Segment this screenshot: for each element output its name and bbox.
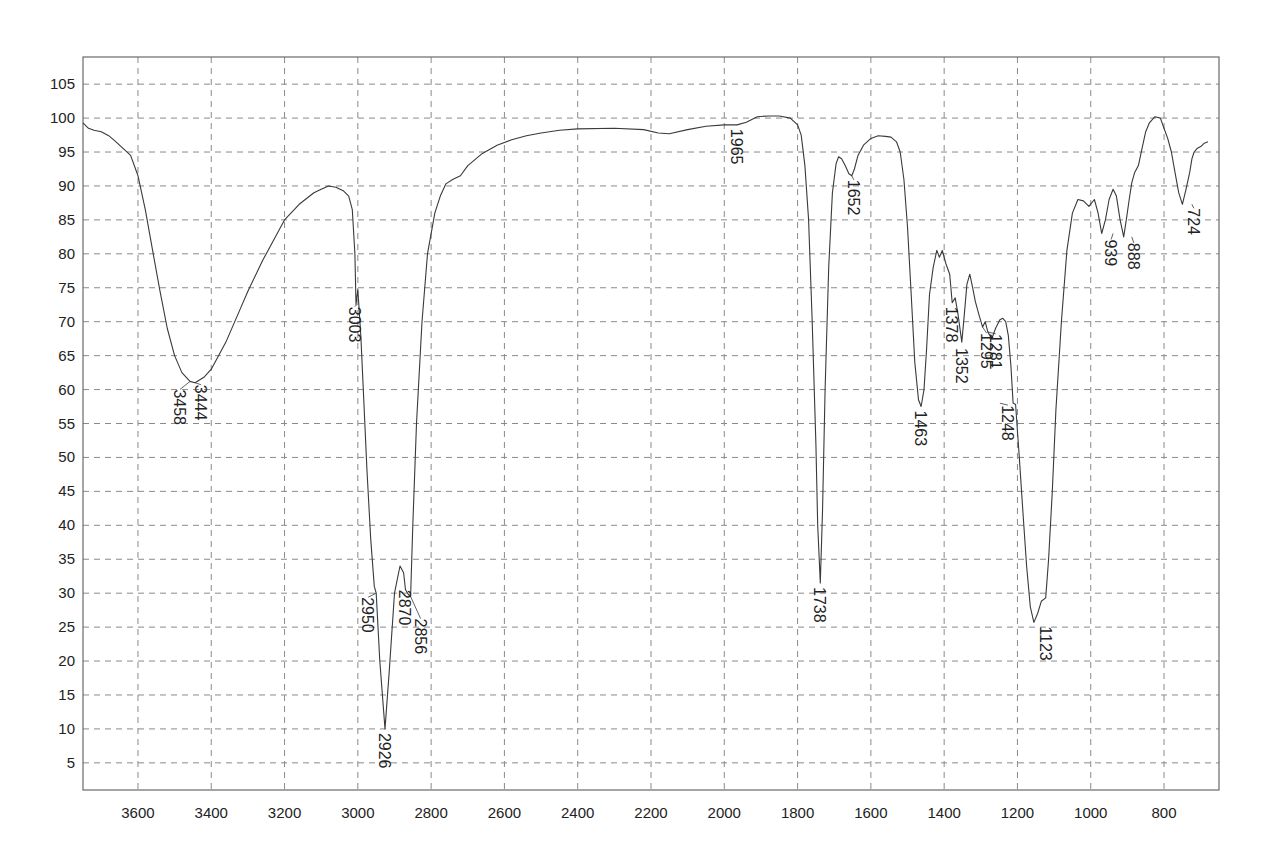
x-tick-label: 3000	[341, 804, 374, 821]
y-tick-label: 85	[58, 211, 75, 228]
y-tick-label: 90	[58, 177, 75, 194]
y-tick-label: 95	[58, 143, 75, 160]
x-tick-label: 2600	[488, 804, 521, 821]
peak-label: 2926	[376, 733, 393, 769]
y-axis-ticks: 5101520253035404550556065707580859095100…	[50, 75, 75, 771]
ir-spectrum-chart: 5101520253035404550556065707580859095100…	[0, 0, 1268, 853]
peak-label: 2856	[412, 619, 429, 655]
peak-label: 724	[1185, 208, 1202, 235]
peak-label: 1248	[999, 405, 1016, 441]
y-tick-label: 65	[58, 347, 75, 364]
x-tick-label: 800	[1152, 804, 1177, 821]
y-tick-label: 60	[58, 381, 75, 398]
y-tick-label: 10	[58, 720, 75, 737]
peak-label: 1123	[1037, 626, 1054, 661]
y-tick-label: 55	[58, 415, 75, 432]
x-tick-label: 2200	[634, 804, 667, 821]
x-axis-ticks: 3600340032003000280026002400220020001800…	[121, 804, 1176, 821]
y-tick-label: 70	[58, 313, 75, 330]
peak-label: 1463	[912, 411, 929, 447]
y-tick-label: 45	[58, 482, 75, 499]
y-tick-label: 80	[58, 245, 75, 262]
peak-label: 3003	[346, 307, 363, 343]
y-tick-label: 40	[58, 516, 75, 533]
peak-annotations: 3458344430032950292628702856196517381652…	[171, 129, 1202, 769]
peak-label: 3444	[192, 385, 209, 421]
y-tick-label: 25	[58, 618, 75, 635]
y-tick-label: 20	[58, 652, 75, 669]
y-tick-label: 35	[58, 550, 75, 567]
x-tick-label: 3600	[121, 804, 154, 821]
peak-label: 2870	[396, 590, 413, 626]
x-tick-label: 1800	[781, 804, 814, 821]
peak-label: 2950	[359, 597, 376, 633]
x-tick-label: 1400	[927, 804, 960, 821]
x-tick-label: 1600	[854, 804, 887, 821]
y-tick-label: 100	[50, 109, 75, 126]
grid-lines	[83, 57, 1219, 790]
x-tick-label: 2000	[708, 804, 741, 821]
peak-label: 1965	[728, 129, 745, 165]
peak-label: 1652	[845, 180, 862, 216]
peak-label: 3458	[171, 389, 188, 425]
x-tick-label: 3200	[268, 804, 301, 821]
y-tick-label: 50	[58, 448, 75, 465]
y-tick-label: 105	[50, 75, 75, 92]
x-tick-label: 2800	[414, 804, 447, 821]
y-tick-label: 15	[58, 686, 75, 703]
peak-leader-line	[180, 381, 190, 389]
x-tick-label: 1200	[1001, 804, 1034, 821]
x-tick-label: 1000	[1074, 804, 1107, 821]
y-tick-label: 5	[67, 754, 75, 771]
chart-canvas: 5101520253035404550556065707580859095100…	[0, 0, 1268, 853]
x-tick-label: 3400	[195, 804, 228, 821]
peak-label: 1352	[953, 348, 970, 384]
peak-label: 888	[1125, 243, 1142, 270]
peak-label: 939	[1102, 239, 1119, 266]
x-tick-label: 2400	[561, 804, 594, 821]
y-tick-label: 75	[58, 279, 75, 296]
peak-label: 1281	[987, 334, 1004, 370]
peak-label: 1738	[811, 587, 828, 623]
peak-label: 1378	[943, 307, 960, 343]
y-tick-label: 30	[58, 584, 75, 601]
